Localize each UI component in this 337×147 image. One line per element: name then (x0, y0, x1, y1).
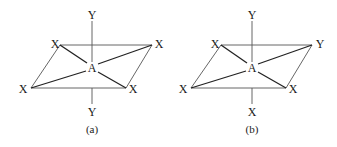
bottom-right-ligand-b: X (289, 82, 298, 96)
structure-b: A Y X X Y X X (b) (179, 8, 325, 136)
top-left-ligand-b: X (211, 37, 220, 51)
bond-top-left-a (60, 45, 87, 63)
top-ligand-b: Y (248, 8, 257, 22)
bottom-ligand-b: X (248, 105, 257, 119)
diagram-canvas: A Y Y X X X X (a) A Y X X Y X X (b) (0, 0, 337, 147)
top-right-ligand-a: X (155, 37, 164, 51)
bond-bottom-left-a (31, 71, 86, 88)
structure-a: A Y Y X X X X (a) (19, 8, 164, 136)
bottom-left-ligand-a: X (19, 82, 28, 96)
bond-bottom-right-a (98, 72, 126, 88)
center-atom-b: A (248, 61, 257, 75)
bond-top-right-a (98, 45, 152, 64)
top-ligand-a: Y (88, 8, 97, 22)
bottom-left-ligand-b: X (179, 82, 188, 96)
caption-b: (b) (246, 123, 259, 136)
top-left-ligand-a: X (51, 37, 60, 51)
bond-top-left-b (221, 45, 247, 63)
center-atom-a: A (88, 61, 97, 75)
caption-a: (a) (86, 123, 99, 136)
bottom-ligand-a: Y (88, 105, 97, 119)
top-right-ligand-b: Y (316, 37, 325, 51)
bond-bottom-left-b (191, 71, 246, 88)
bond-bottom-right-b (258, 72, 286, 88)
bond-top-right-b (258, 45, 312, 64)
bottom-right-ligand-a: X (129, 82, 138, 96)
